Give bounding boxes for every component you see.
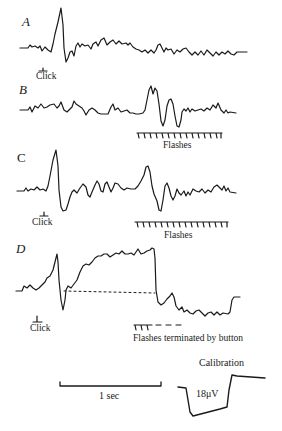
panel-letter-d: D xyxy=(16,241,25,257)
click-marker-d xyxy=(33,316,42,322)
time-scale-bar xyxy=(60,382,161,386)
flash-markers-c xyxy=(135,222,228,227)
panel-letter-b: B xyxy=(19,82,27,98)
eeg-figure: A B C D Click Click Click Flashes Flashe… xyxy=(0,0,282,431)
trace-a xyxy=(20,8,247,62)
trace-b xyxy=(20,86,236,127)
click-label-d: Click xyxy=(30,323,51,333)
click-label-a: Click xyxy=(36,71,57,81)
panel-letter-c: C xyxy=(17,150,26,166)
trace-d xyxy=(16,248,240,316)
click-marker-c xyxy=(40,212,48,216)
flashes-label-b: Flashes xyxy=(163,140,192,150)
calibration-value: 18μV xyxy=(196,388,219,399)
calibration-title: Calibration xyxy=(199,357,244,368)
trace-c xyxy=(17,150,236,211)
flashes-label-c: Flashes xyxy=(164,230,193,240)
calibration-pulse xyxy=(178,375,265,416)
flashes-terminated-label-d: Flashes terminated by button xyxy=(133,333,243,343)
flash-markers-b xyxy=(137,133,222,138)
flash-markers-d xyxy=(134,325,152,330)
click-label-c: Click xyxy=(32,217,53,227)
time-scale-label: 1 sec xyxy=(99,390,119,401)
baseline-dotted-d xyxy=(64,291,155,293)
panel-letter-a: A xyxy=(22,14,30,30)
